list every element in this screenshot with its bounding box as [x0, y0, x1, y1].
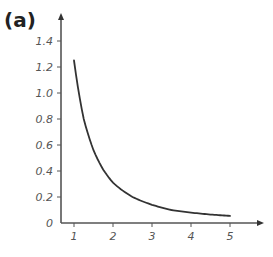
y-tick-label: 0.2	[36, 191, 54, 204]
y-tick-label: 0.6	[36, 139, 54, 152]
x-tick-label: 4	[188, 230, 195, 243]
x-tick-label: 1	[71, 230, 78, 243]
series	[74, 61, 230, 216]
data-curve	[74, 61, 230, 216]
y-tick-label: 0	[46, 217, 53, 230]
chart: 00.20.40.60.81.01.21.412345	[0, 0, 273, 257]
x-tick-label: 2	[110, 230, 117, 243]
x-axis-arrow-icon	[257, 220, 264, 226]
x-tick-label: 5	[227, 230, 234, 243]
y-tick-label: 1.2	[36, 61, 54, 74]
y-tick-label: 1.4	[36, 35, 54, 48]
x-tick-label: 3	[149, 230, 156, 243]
y-axis-arrow-icon	[58, 13, 64, 20]
y-tick-label: 0.8	[36, 113, 54, 126]
ticks: 00.20.40.60.81.01.21.412345	[36, 35, 234, 243]
y-tick-label: 0.4	[36, 165, 54, 178]
axes	[58, 13, 264, 226]
y-tick-label: 1.0	[36, 87, 54, 100]
